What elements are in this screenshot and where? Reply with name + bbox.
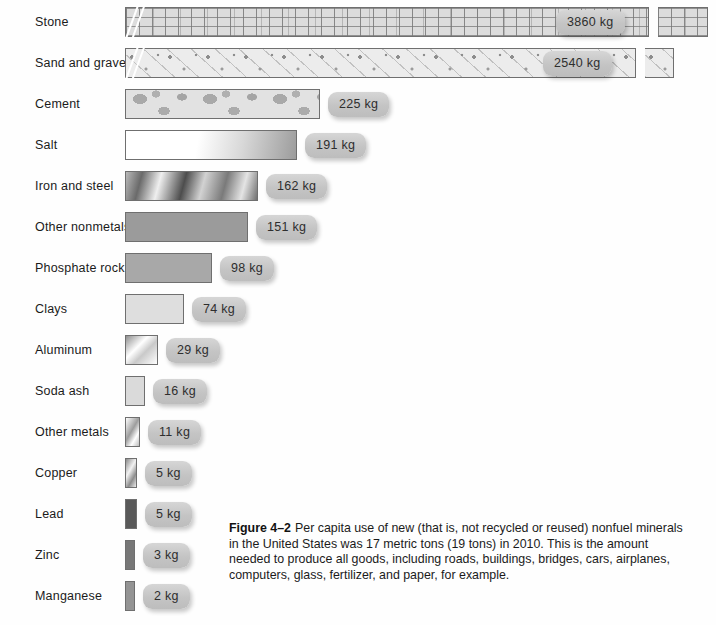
value-badge: 2 kg <box>143 584 190 609</box>
chart-row: Cement225 kg <box>0 87 716 121</box>
figure-caption: Figure 4–2Per capita use of new (that is… <box>229 521 684 583</box>
bar-track: 2540 kg <box>125 46 674 80</box>
value-badge: 74 kg <box>192 297 246 322</box>
value-badge: 225 kg <box>328 92 389 117</box>
bar-track: 98 kg <box>125 251 274 285</box>
chart-row: Manganese2 kg <box>0 579 716 613</box>
axis-break-gap <box>636 48 645 78</box>
chart-row: Stone3860 kg <box>0 5 716 39</box>
bar-track: 3860 kg <box>125 5 708 39</box>
bar-track: 162 kg <box>125 169 327 203</box>
value-badge: 98 kg <box>220 256 274 281</box>
bar-track: 74 kg <box>125 292 246 326</box>
bar-track: 191 kg <box>125 128 366 162</box>
value-badge: 162 kg <box>266 174 327 199</box>
chart-row: Phosphate rock98 kg <box>0 251 716 285</box>
value-badge: 3860 kg <box>556 10 625 35</box>
bar-track: 225 kg <box>125 87 389 121</box>
chart-row: Aluminum29 kg <box>0 333 716 367</box>
chart-row: Salt191 kg <box>0 128 716 162</box>
bar[interactable] <box>125 171 258 201</box>
bar[interactable] <box>125 417 140 447</box>
bar[interactable] <box>125 212 248 242</box>
chart-row: Other nonmetals151 kg <box>0 210 716 244</box>
bar-track: 11 kg <box>125 415 201 449</box>
bar-continuation[interactable] <box>658 7 708 37</box>
chart-row: Iron and steel162 kg <box>0 169 716 203</box>
bar-continuation[interactable] <box>645 48 674 78</box>
chart-row: Clays74 kg <box>0 292 716 326</box>
value-badge: 11 kg <box>148 420 201 445</box>
bar[interactable] <box>125 89 320 119</box>
chart-row: Other metals11 kg <box>0 415 716 449</box>
bar[interactable] <box>125 581 135 611</box>
value-badge: 5 kg <box>145 461 192 486</box>
bar[interactable] <box>125 335 158 365</box>
bar[interactable] <box>125 130 297 160</box>
bar[interactable] <box>125 253 212 283</box>
chart-row: Soda ash16 kg <box>0 374 716 408</box>
chart-row: Copper5 kg <box>0 456 716 490</box>
bar[interactable] <box>125 376 145 406</box>
value-badge: 16 kg <box>153 379 207 404</box>
bar-track: 151 kg <box>125 210 317 244</box>
bar-track: 5 kg <box>125 456 192 490</box>
figure-caption-text: Per capita use of new (that is, not recy… <box>229 521 683 582</box>
bar[interactable] <box>125 294 184 324</box>
value-badge: 29 kg <box>166 338 220 363</box>
bar-track: 2 kg <box>125 579 190 613</box>
bar-track: 16 kg <box>125 374 207 408</box>
value-badge: 3 kg <box>143 543 190 568</box>
bar-track: 29 kg <box>125 333 220 367</box>
axis-break-gap <box>649 7 658 37</box>
value-badge: 2540 kg <box>543 51 612 76</box>
bar-track: 3 kg <box>125 538 190 572</box>
bar-track: 5 kg <box>125 497 192 531</box>
bar[interactable] <box>125 540 135 570</box>
figure-number: Figure 4–2 <box>229 521 291 535</box>
bar[interactable] <box>125 458 137 488</box>
value-badge: 5 kg <box>145 502 192 527</box>
figure-container: Stone3860 kgSand and gravel2540 kgCement… <box>0 0 716 625</box>
bar[interactable] <box>125 499 137 529</box>
value-badge: 151 kg <box>256 215 317 240</box>
value-badge: 191 kg <box>305 133 366 158</box>
chart-row: Sand and gravel2540 kg <box>0 46 716 80</box>
